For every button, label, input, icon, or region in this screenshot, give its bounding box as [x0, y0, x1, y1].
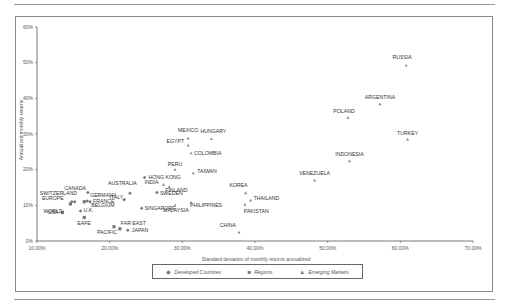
point-label: EUROPE: [42, 195, 64, 201]
data-point: PHILIPPINES: [190, 201, 223, 209]
square-marker-icon: [83, 216, 86, 219]
point-label: MALAYSIA: [163, 207, 189, 213]
legend-item-regions: ■ Regions: [248, 269, 273, 275]
data-point: VENEZUELA: [299, 170, 330, 181]
triangle-marker-icon: [249, 199, 252, 202]
data-point: ARGENTINA: [365, 94, 396, 105]
y-tick-label: 0%: [26, 238, 34, 244]
y-axis-title: Annualized monthly returns: [18, 99, 24, 160]
data-point: INDONESIA: [335, 151, 364, 162]
point-label: COLOMBIA: [194, 150, 222, 156]
data-point: EAFE: [77, 216, 91, 227]
legend-item-emerging: ▲ Emerging Markets: [299, 269, 349, 275]
data-point: EGYPT: [167, 138, 190, 146]
y-tick-label: 10%: [23, 202, 34, 208]
square-marker-icon: [83, 200, 86, 203]
y-tick-label: 40%: [23, 95, 34, 101]
triangle-marker-icon: [174, 168, 177, 171]
x-tick-label: 60.00%: [392, 245, 410, 251]
x-tick-label: 70.00%: [465, 245, 483, 251]
point-label: INDIA: [145, 179, 159, 185]
diamond-marker-icon: [85, 199, 89, 203]
legend-label: Regions: [254, 269, 272, 275]
point-label: KOREA: [229, 182, 248, 188]
point-label: PERU: [168, 161, 183, 167]
triangle-marker-icon: [187, 144, 190, 147]
point-label: POLAND: [333, 108, 355, 114]
square-marker-icon: [118, 227, 121, 230]
data-point: CHINA: [220, 222, 241, 233]
point-label: PAKISTAN: [244, 208, 269, 214]
diamond-marker-icon: [155, 191, 159, 195]
point-label: INDONESIA: [335, 151, 364, 157]
data-point: POLAND: [333, 108, 355, 119]
axes: 10.00%20.00%30.00%40.00%50.00%60.00%70.0…: [23, 24, 482, 251]
x-axis-title: Standard deviation of monthly returns an…: [202, 256, 311, 262]
data-points: SWITZERLANDEUROPECANADAGERMANYFRANCEU.K.…: [40, 54, 419, 235]
data-point: THAILAND: [249, 195, 279, 201]
legend-label: Emerging Markets: [308, 269, 349, 275]
point-label: EAFE: [77, 220, 91, 226]
y-tick-label: 20%: [23, 166, 34, 172]
triangle-marker-icon: [238, 231, 241, 234]
point-label: RUSSIA: [392, 54, 412, 60]
point-label: VENEZUELA: [299, 170, 330, 176]
point-label: CANADA: [64, 185, 86, 191]
diamond-marker-icon: [140, 206, 144, 210]
point-label: TURKEY: [397, 130, 419, 136]
point-label: PACIFIC: [97, 229, 117, 235]
data-point: INDIA: [145, 179, 165, 186]
triangle-marker-icon: [192, 172, 195, 175]
data-point: TAIWAN: [192, 168, 217, 174]
x-tick-label: 40.00%: [247, 245, 265, 251]
triangle-marker-icon: [348, 160, 351, 163]
data-point: PAKISTAN: [243, 203, 269, 214]
data-point: FINLAND: [165, 185, 187, 193]
diamond-marker-icon: ◆: [166, 268, 171, 275]
point-label: TAIWAN: [197, 168, 217, 174]
data-point: WORLD: [43, 202, 72, 214]
triangle-marker-icon: [406, 138, 409, 141]
y-tick-label: 30%: [23, 131, 34, 137]
data-point: TURKEY: [397, 130, 419, 141]
triangle-marker-icon: [190, 152, 193, 155]
legend: ◆ Developed Countries ■ Regions ▲ Emergi…: [152, 264, 363, 279]
y-tick-label: 50%: [23, 59, 34, 65]
point-label: CHINA: [220, 222, 237, 228]
triangle-marker-icon: [378, 102, 381, 105]
y-tick-label: 60%: [23, 24, 34, 30]
bottom-rule: [14, 299, 495, 300]
data-point: PERU: [168, 161, 183, 171]
triangle-marker-icon: ▲: [299, 269, 305, 275]
triangle-marker-icon: [347, 116, 350, 119]
point-label: JAPAN: [132, 227, 149, 233]
data-point: HUNGARY: [200, 128, 226, 140]
diamond-marker-icon: [79, 209, 83, 213]
triangle-marker-icon: [243, 203, 246, 206]
point-label: FINLAND: [165, 187, 187, 193]
data-point: PACIFIC: [97, 225, 117, 235]
point-label: FAR EAST: [121, 220, 147, 226]
square-marker-icon: ■: [248, 269, 252, 275]
legend-item-developed: ◆ Developed Countries: [166, 268, 221, 275]
point-label: THAILAND: [254, 195, 280, 201]
x-tick-label: 50.00%: [319, 245, 337, 251]
point-label: HUNGARY: [200, 128, 226, 134]
triangle-marker-icon: [244, 192, 247, 195]
triangle-marker-icon: [405, 64, 408, 67]
square-marker-icon: [69, 202, 72, 205]
point-label: WORLD: [43, 208, 63, 214]
diamond-marker-icon: [128, 191, 132, 195]
point-label: BELGIUM: [91, 202, 114, 208]
triangle-marker-icon: [210, 137, 213, 140]
point-label: MEXICO: [178, 127, 198, 133]
data-point: U.K.: [79, 207, 94, 213]
data-point: KOREA: [229, 182, 248, 194]
triangle-marker-icon: [162, 183, 165, 186]
x-tick-label: 30.00%: [174, 245, 192, 251]
diamond-marker-icon: [126, 229, 130, 233]
data-point: EUROPE: [42, 195, 74, 204]
x-tick-label: 20.00%: [101, 245, 119, 251]
point-label: PHILIPPINES: [190, 202, 223, 208]
point-label: AUSTRALIA: [108, 180, 137, 186]
